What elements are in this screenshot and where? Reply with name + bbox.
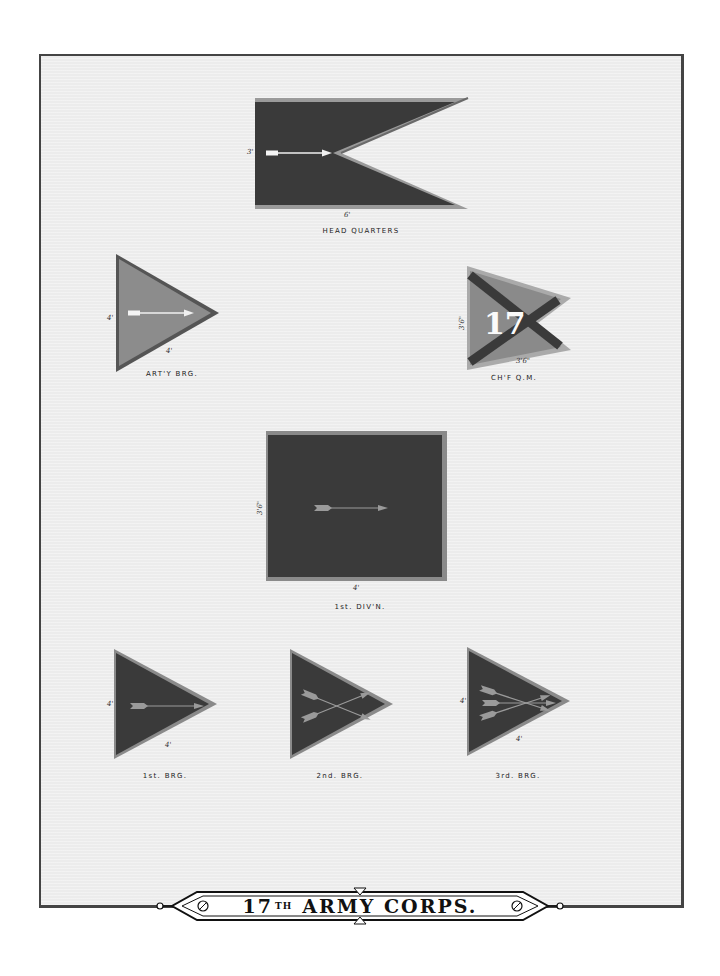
caption-arty-brig: ART'Y BRG.: [146, 370, 198, 378]
dim-3rdbrg-vertical: 4': [460, 697, 466, 705]
flag-2nd-brg: [290, 649, 393, 759]
flag-chief-qm: 17: [467, 266, 571, 370]
dim-hq-vertical: 3': [247, 148, 253, 156]
title-number: 17: [243, 895, 273, 917]
flag-1st-divn: [266, 431, 447, 581]
dim-arty-horizontal: 4': [166, 347, 172, 355]
dim-chfqm-horizontal: 3'6": [516, 357, 530, 365]
title-text: 17THARMY CORPS.: [163, 884, 557, 928]
dim-1stdiv-horizontal: 4': [353, 584, 359, 592]
dim-1stdiv-vertical: 3'6": [256, 501, 264, 515]
flag-head-quarters: [255, 98, 468, 209]
dim-1stbrg-horizontal: 4': [165, 741, 171, 749]
numeral-17: 17: [484, 306, 526, 341]
flags-artwork: 17: [0, 0, 720, 976]
caption-3rd-brg: 3rd. BRG.: [495, 772, 540, 780]
caption-2nd-brg: 2nd. BRG.: [317, 772, 364, 780]
caption-head-quarters: HEAD QUARTERS: [323, 227, 400, 235]
dim-arty-vertical: 4': [107, 314, 113, 322]
title-banner: 17THARMY CORPS.: [163, 884, 557, 928]
caption-1st-divn: 1st. DIV'N.: [334, 603, 385, 611]
dim-hq-horizontal: 6': [344, 211, 350, 219]
dim-1stbrg-vertical: 4': [107, 700, 113, 708]
title-main: ARMY CORPS.: [302, 895, 477, 917]
dim-3rdbrg-horizontal: 4': [516, 735, 522, 743]
caption-chief-qm: CH'F Q.M.: [491, 374, 537, 382]
title-suffix: TH: [275, 901, 292, 911]
dim-chfqm-vertical: 3'6": [458, 316, 466, 330]
caption-1st-brg: 1st. BRG.: [143, 772, 187, 780]
